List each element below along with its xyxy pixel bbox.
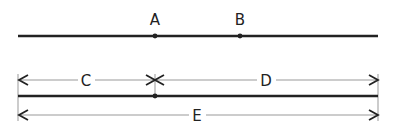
- bottom-line-group: [18, 94, 378, 99]
- point-b-label: B: [235, 11, 245, 29]
- dimension-d-label: D: [260, 72, 272, 90]
- dimension-e-label: E: [192, 107, 201, 125]
- dimension-d: D: [155, 72, 378, 90]
- bottom-point-dot: [153, 94, 158, 99]
- line-segment-diagram: A B C D E: [0, 0, 396, 134]
- point-a-label: A: [150, 11, 161, 29]
- dimension-e: E: [19, 107, 378, 125]
- top-line-group: A B: [18, 11, 378, 38]
- dimension-c: C: [19, 72, 155, 90]
- point-a-dot: [153, 34, 158, 39]
- point-b-dot: [238, 34, 243, 39]
- dimension-c-label: C: [81, 72, 91, 90]
